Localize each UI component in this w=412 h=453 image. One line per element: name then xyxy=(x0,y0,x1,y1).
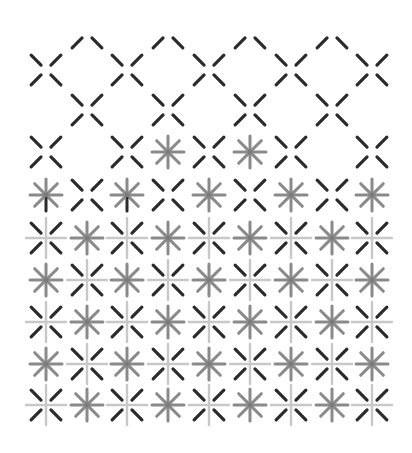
glyph-xcross-icon xyxy=(148,260,188,300)
glyph-x-icon xyxy=(235,95,265,125)
glyph-x-icon xyxy=(317,95,347,125)
glyph-xcross-icon xyxy=(271,385,311,425)
glyph-star-icon xyxy=(234,222,266,254)
glyph-star-icon xyxy=(356,348,388,380)
glyph-top-icon xyxy=(317,38,347,48)
glyph-xcross-icon xyxy=(26,218,66,258)
x-and-asterisk-pattern xyxy=(0,0,412,453)
glyph-star-icon xyxy=(234,136,266,168)
glyph-star-icon xyxy=(193,348,225,380)
glyph-x-icon xyxy=(153,180,183,210)
glyph-star-icon xyxy=(71,306,103,338)
glyph-star-icon xyxy=(275,179,307,211)
glyph-top-icon xyxy=(72,38,102,48)
glyph-xcross-icon xyxy=(271,218,311,258)
glyph-xcross-icon xyxy=(148,344,188,384)
glyph-x-icon xyxy=(72,95,102,125)
glyph-x-icon xyxy=(276,137,306,167)
glyph-xcross-icon xyxy=(230,344,270,384)
glyph-x-icon xyxy=(112,55,142,85)
glyph-star-icon xyxy=(275,264,307,296)
glyph-x-icon xyxy=(153,95,183,125)
glyph-xcross-icon xyxy=(107,302,147,342)
glyph-xcross-icon xyxy=(312,260,352,300)
glyph-star-icon xyxy=(152,389,184,421)
glyph-xcross-icon xyxy=(189,218,229,258)
glyph-star-icon xyxy=(234,306,266,338)
glyph-x-icon xyxy=(317,180,347,210)
glyph-xcross-icon xyxy=(67,260,107,300)
glyph-xcross-icon xyxy=(189,385,229,425)
glyph-star-icon xyxy=(111,348,143,380)
glyph-x-icon xyxy=(276,55,306,85)
glyph-star-icon xyxy=(356,264,388,296)
glyph-x-icon xyxy=(357,137,387,167)
glyph-star-icon xyxy=(71,389,103,421)
glyph-xcross-icon xyxy=(230,260,270,300)
glyph-xcross-icon xyxy=(189,302,229,342)
glyph-star-icon xyxy=(30,264,62,296)
glyph-star-icon xyxy=(356,179,388,211)
glyph-x-icon xyxy=(112,137,142,167)
glyph-xcross-icon xyxy=(352,302,392,342)
glyph-star-icon xyxy=(234,389,266,421)
glyph-star-icon xyxy=(152,136,184,168)
glyph-xcross-icon xyxy=(67,344,107,384)
glyph-star-dark-icon xyxy=(30,179,62,211)
glyph-star-dark-icon xyxy=(111,179,143,211)
glyph-star-icon xyxy=(71,222,103,254)
glyph-star-icon xyxy=(193,264,225,296)
glyph-x-icon xyxy=(235,180,265,210)
glyph-star-icon xyxy=(152,306,184,338)
glyph-star-icon xyxy=(316,222,348,254)
pattern-canvas xyxy=(0,0,412,453)
glyph-x-icon xyxy=(194,55,224,85)
glyph-xcross-icon xyxy=(312,344,352,384)
glyph-x-icon xyxy=(31,55,61,85)
glyph-xcross-icon xyxy=(352,385,392,425)
glyph-xcross-icon xyxy=(352,218,392,258)
glyph-x-icon xyxy=(357,55,387,85)
glyph-xcross-icon xyxy=(107,385,147,425)
glyph-top-icon xyxy=(235,38,265,48)
glyph-star-icon xyxy=(111,264,143,296)
glyph-xcross-icon xyxy=(107,218,147,258)
glyph-xcross-icon xyxy=(26,302,66,342)
glyph-star-icon xyxy=(193,179,225,211)
glyph-star-icon xyxy=(275,348,307,380)
glyph-x-icon xyxy=(72,180,102,210)
glyph-x-icon xyxy=(31,137,61,167)
glyph-star-icon xyxy=(30,348,62,380)
glyph-star-icon xyxy=(316,389,348,421)
glyph-xcross-icon xyxy=(26,385,66,425)
glyph-xcross-icon xyxy=(271,302,311,342)
glyph-top-icon xyxy=(153,38,183,48)
glyph-star-icon xyxy=(152,222,184,254)
glyph-star-icon xyxy=(316,306,348,338)
glyph-x-icon xyxy=(194,137,224,167)
